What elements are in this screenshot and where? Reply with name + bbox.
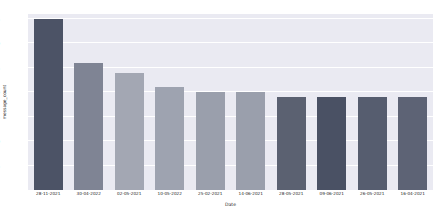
x-tick-label: 16-04-2021 [393, 191, 434, 201]
x-axis-ticks: 28-11-202130-04-202202-05-202110-05-2022… [28, 191, 433, 201]
bar-chart-figure: 5101520253035 28-11-202130-04-202202-05-… [0, 0, 437, 222]
x-tick-label: 02-05-2021 [109, 191, 150, 201]
x-tick-label: 14-06-2021 [231, 191, 272, 201]
x-tick-label: 26-05-2021 [352, 191, 393, 201]
x-tick-label: 28-05-2021 [271, 191, 312, 201]
y-axis-ticks: 5101520253035 [28, 14, 433, 190]
x-axis-title: Date [28, 202, 433, 207]
x-tick-label: 10-05-2022 [150, 191, 191, 201]
x-tick-label: 25-02-2021 [190, 191, 231, 201]
x-tick-label: 28-11-2021 [28, 191, 69, 201]
y-axis-title: message_count [2, 85, 7, 119]
x-tick-label: 30-04-2022 [69, 191, 110, 201]
x-tick-label: 09-06-2021 [312, 191, 353, 201]
